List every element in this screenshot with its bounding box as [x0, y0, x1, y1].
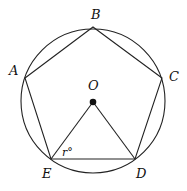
label-e: E: [41, 166, 52, 181]
center-point-o: [90, 99, 97, 106]
label-d: D: [135, 166, 147, 181]
label-c: C: [169, 69, 179, 84]
label-a: A: [8, 63, 18, 78]
label-o: O: [88, 78, 99, 93]
angle-label-r: r°: [62, 146, 73, 159]
label-b: B: [90, 7, 101, 22]
segment-od: [93, 102, 135, 159]
pentagon-diagram: B A C O E D r°: [0, 0, 187, 191]
